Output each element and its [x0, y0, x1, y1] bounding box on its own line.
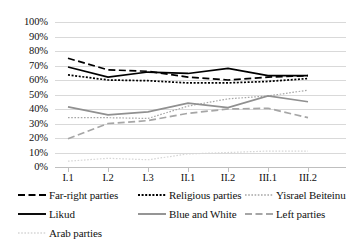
chart-legend: Far-right partiesReligious partiesYisrae… — [0, 188, 349, 247]
y-axis-tick-label: 80% — [29, 45, 48, 56]
y-axis-tick-label: 0% — [34, 161, 48, 172]
y-axis-tick-label: 40% — [29, 103, 48, 114]
legend-line-swatch-icon — [18, 227, 46, 239]
legend-label: Left parties — [276, 208, 325, 221]
legend-line-swatch-icon — [245, 189, 273, 201]
y-axis-tick-label: 10% — [29, 147, 48, 158]
x-axis-labels: I.1I.2I.3II.1II.2III.1III.2 — [55, 172, 346, 186]
legend-label: Yisrael Beiteinu — [276, 189, 346, 202]
legend-label: Arab parties — [49, 227, 102, 240]
plot-area: 100%90%80%70%60%50%40%30%20%10%0% I.1I.2… — [0, 0, 349, 182]
legend-label: Blue and White — [169, 208, 236, 221]
legend-item[interactable]: Yisrael Beiteinu — [245, 188, 346, 202]
x-axis-tick-label: I.3 — [142, 172, 153, 184]
x-axis-tick-label: I.2 — [102, 172, 113, 184]
y-axis-labels: 100%90%80%70%60%50%40%30%20%10%0% — [0, 0, 52, 182]
series-line — [68, 108, 308, 138]
legend-line-swatch-icon — [18, 189, 46, 201]
x-axis-tick-label: II.2 — [221, 172, 235, 184]
legend-line-swatch-icon — [138, 208, 166, 220]
legend-label: Religious parties — [169, 189, 242, 202]
line-chart: 100%90%80%70%60%50%40%30%20%10%0% I.1I.2… — [0, 0, 349, 247]
y-axis-tick-label: 90% — [29, 31, 48, 42]
legend-item[interactable]: Far-right parties — [18, 188, 118, 202]
legend-label: Likud — [49, 208, 75, 221]
series-lines — [55, 0, 346, 182]
series-line — [68, 151, 308, 161]
legend-item[interactable]: Left parties — [245, 207, 325, 221]
legend-label: Far-right parties — [49, 189, 118, 202]
x-axis-tick-label: I.1 — [62, 172, 73, 184]
legend-item[interactable]: Likud — [18, 207, 75, 221]
legend-item[interactable]: Religious parties — [138, 188, 242, 202]
x-axis-tick-label: II.1 — [181, 172, 195, 184]
y-axis-tick-label: 70% — [29, 60, 48, 71]
legend-line-swatch-icon — [245, 208, 273, 220]
legend-item[interactable]: Arab parties — [18, 226, 102, 240]
grid-area — [55, 0, 346, 182]
legend-line-swatch-icon — [18, 208, 46, 220]
legend-line-swatch-icon — [138, 189, 166, 201]
series-line — [68, 96, 308, 115]
y-axis-tick-label: 20% — [29, 132, 48, 143]
y-axis-tick-label: 30% — [29, 118, 48, 129]
x-axis-tick-label: III.1 — [259, 172, 277, 184]
y-axis-tick-label: 100% — [24, 16, 48, 27]
y-axis-tick-label: 50% — [29, 89, 48, 100]
x-axis-tick-label: III.2 — [299, 172, 317, 184]
y-axis-tick-label: 60% — [29, 74, 48, 85]
legend-item[interactable]: Blue and White — [138, 207, 236, 221]
